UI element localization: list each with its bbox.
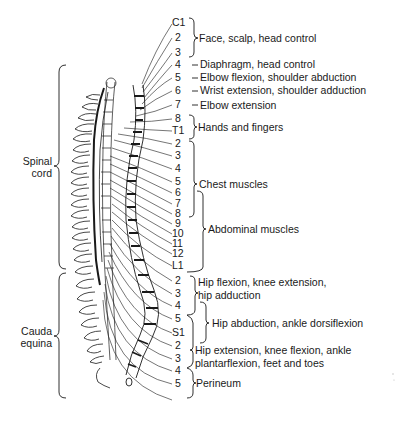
function-label-elbow-extension: Elbow extension xyxy=(200,100,276,111)
function-label-hip-extension: Hip extension, knee flexion, ankle plant… xyxy=(195,344,351,370)
side-label-spinal-cord: Spinal cord xyxy=(14,155,52,179)
segment-label: S1 xyxy=(172,327,185,338)
segment-label: 6 xyxy=(175,85,181,96)
segment-label: 4 xyxy=(175,163,181,174)
segment-label: 12 xyxy=(172,248,184,259)
function-label-elbow-flexion: Elbow flexion, shoulder abduction xyxy=(200,72,356,83)
side-braces xyxy=(54,65,66,398)
segment-label: 3 xyxy=(175,47,181,58)
function-label-perineum: Perineum xyxy=(196,378,241,389)
leader-lines xyxy=(103,24,172,400)
segment-label: C1 xyxy=(172,17,185,28)
function-line: plantarflexion, feet and toes xyxy=(195,357,351,370)
segment-label: 3 xyxy=(175,288,181,299)
function-label-wrist-extension: Wrist extension, shoulder adduction xyxy=(200,85,366,96)
segment-label: 2 xyxy=(175,32,181,43)
side-label-line: Cauda xyxy=(10,325,52,337)
segment-label: 4 xyxy=(175,300,181,311)
segment-label: 5 xyxy=(175,313,181,324)
side-label-cauda-equina: Cauda equina xyxy=(10,325,52,349)
segment-label: 5 xyxy=(175,378,181,389)
spinal-segment-diagram: Spinal cord Cauda equina C1 2 3 4 5 6 7 … xyxy=(0,0,398,423)
segment-label: 3 xyxy=(175,353,181,364)
function-line: Hip flexion, knee extension, xyxy=(198,276,326,289)
side-label-line: cord xyxy=(14,167,52,179)
segment-label: L1 xyxy=(172,260,184,271)
spinal-cord xyxy=(93,88,108,285)
segment-label: 7 xyxy=(175,99,181,110)
function-label-diaphragm: Diaphragm, head control xyxy=(200,59,315,70)
function-label-hip-abduction: Hip abduction, ankle dorsiflexion xyxy=(212,318,363,329)
segment-label: 5 xyxy=(175,72,181,83)
side-label-line: Spinal xyxy=(14,155,52,167)
segment-label: 2 xyxy=(175,275,181,286)
nerve-roots xyxy=(71,94,110,388)
segment-label: 8 xyxy=(175,113,181,124)
side-label-line: equina xyxy=(10,337,52,349)
segment-label: 4 xyxy=(175,365,181,376)
function-line: Hip extension, knee flexion, ankle xyxy=(195,344,351,357)
segment-label: 2 xyxy=(175,340,181,351)
segment-label: T1 xyxy=(172,125,184,136)
function-line: hip adduction xyxy=(198,289,326,302)
function-label-hip-flexion: Hip flexion, knee extension, hip adducti… xyxy=(198,276,326,302)
segment-label: 3 xyxy=(175,150,181,161)
function-label-hands: Hands and fingers xyxy=(198,122,283,133)
function-label-chest: Chest muscles xyxy=(199,179,268,190)
segment-label: 2 xyxy=(175,138,181,149)
function-label-abdominal: Abdominal muscles xyxy=(208,224,299,235)
function-label-face: Face, scalp, head control xyxy=(199,33,316,44)
segment-label: 4 xyxy=(175,59,181,70)
